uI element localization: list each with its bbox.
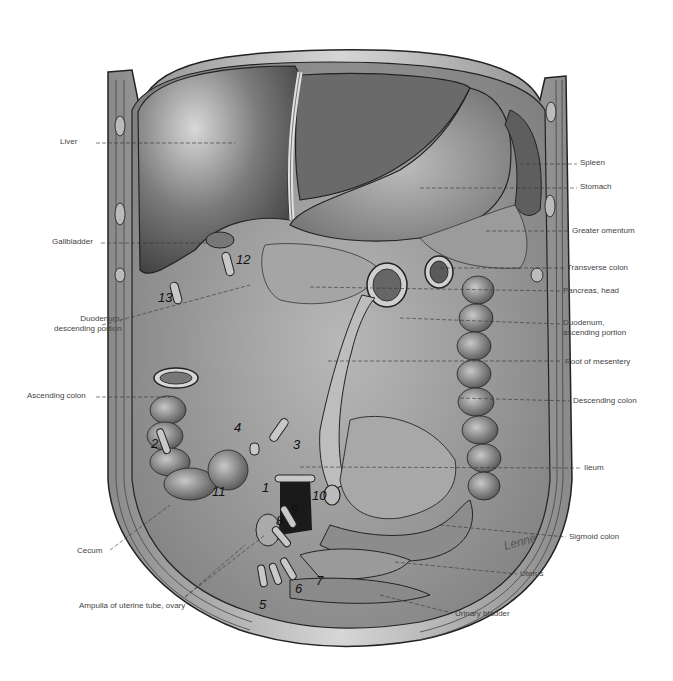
gallbladder-shape [206, 232, 234, 248]
marker-9: 9 [291, 502, 298, 517]
label-greater-omentum: Greater omentum [572, 226, 635, 236]
marker-5: 5 [259, 597, 266, 612]
anatomical-illustration: Lenné Liver Gallbladder Duodenum, descen… [0, 0, 673, 681]
label-ileum: Ileum [584, 463, 604, 473]
label-ampulla-ovary: Ampulla of uterine tube, ovary [79, 601, 185, 611]
marker-13: 13 [158, 290, 172, 305]
marker-6: 6 [295, 581, 302, 596]
label-gallbladder: Gallbladder [52, 237, 93, 247]
abdomen-drawing: Lenné [0, 0, 673, 681]
label-duodenum-descending: Duodenum, descending portion [54, 314, 122, 334]
label-pancreas-head: Pancreas, head [563, 286, 619, 296]
label-liver: Liver [60, 137, 77, 147]
marker-11: 11 [212, 484, 226, 499]
label-duodenum-ascending: Duodenum, ascending portion [563, 318, 626, 338]
label-duodenum-ascending-line1: Duodenum, [563, 318, 626, 328]
label-duodenum-descending-line2: descending portion [54, 324, 122, 334]
label-uterus: Uterus [520, 569, 544, 579]
marker-10: 10 [312, 488, 326, 503]
marker-3: 3 [293, 437, 300, 452]
marker-12: 12 [236, 252, 250, 267]
label-transverse-colon: Transverse colon [567, 263, 628, 273]
label-duodenum-ascending-line2: ascending portion [563, 328, 626, 338]
label-sigmoid-colon: Sigmoid colon [569, 532, 619, 542]
label-root-of-mesentery: Root of mesentery [565, 357, 630, 367]
label-cecum: Cecum [77, 546, 102, 556]
marker-2: 2 [151, 436, 158, 451]
label-spleen: Spleen [580, 158, 605, 168]
label-urinary-bladder: Urinary bladder [455, 609, 510, 619]
marker-4: 4 [234, 420, 241, 435]
label-stomach: Stomach [580, 182, 612, 192]
label-duodenum-descending-line1: Duodenum, [54, 314, 122, 324]
marker-7: 7 [316, 573, 323, 588]
marker-1: 1 [262, 480, 269, 495]
label-ascending-colon: Ascending colon [27, 391, 86, 401]
label-descending-colon: Descending colon [573, 396, 637, 406]
marker-8: 8 [276, 513, 283, 528]
